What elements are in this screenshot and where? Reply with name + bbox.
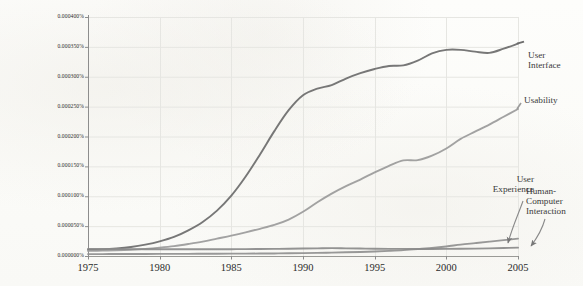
y-axis-tick-label: 0.000050% (18, 222, 84, 228)
y-axis-tick-label: 0.000400% (18, 13, 84, 19)
series-label-usability: Usability (524, 95, 580, 105)
series-label-human-computer-interaction: Human- Computer Interaction (526, 186, 583, 217)
y-axis-tick-label: 0.000300% (18, 73, 84, 79)
y-axis-tick-label: 0.000250% (18, 103, 84, 109)
x-axis-tick-label: 2000 (416, 262, 476, 273)
x-axis-tick-label: 1995 (345, 262, 405, 273)
series-label-user-interface: User Interface (528, 50, 580, 70)
x-axis-tick-label: 1985 (201, 262, 261, 273)
y-axis-tick-label: 0.000000% (18, 252, 84, 258)
x-axis-tick-label: 1980 (130, 262, 190, 273)
annotation-arrow-hci (531, 219, 545, 246)
y-axis-tick-label: 0.000100% (18, 192, 84, 198)
y-axis-tick-label: 0.000150% (18, 162, 84, 168)
y-axis-tick-label: 0.000350% (18, 43, 84, 49)
chart-plot-area (0, 0, 583, 286)
annotation-arrow-user-experience (508, 201, 523, 243)
x-axis-tick-label: 1975 (58, 262, 118, 273)
x-axis-tick-label: 1990 (273, 262, 333, 273)
x-axis-tick-label: 2005 (488, 262, 548, 273)
ngram-chart: 0.000400%0.000350%0.000300%0.000250%0.00… (0, 0, 583, 286)
series-label-user-experience: User Experience (468, 174, 534, 194)
y-axis-tick-label: 0.000200% (18, 133, 84, 139)
